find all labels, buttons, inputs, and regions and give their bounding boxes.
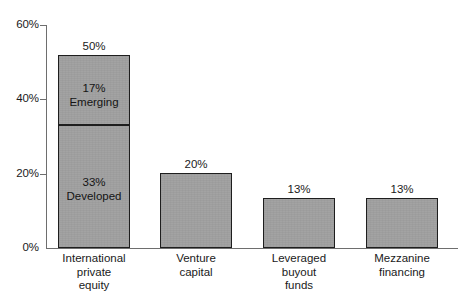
category-line-2: capital	[154, 266, 238, 280]
y-tick-mark-60	[40, 25, 47, 26]
category-label-leveraged-buyout-funds: Leveraged buyout funds	[257, 252, 341, 293]
category-line-1: Leveraged	[257, 252, 341, 266]
category-line-1: Venture	[154, 252, 238, 266]
segment-label-developed: 33% Developed	[58, 176, 130, 203]
bar-venture-capital	[160, 173, 232, 248]
plot-area: 60% 40% 20% 0% 50% 17% Emerging 33% Deve…	[0, 0, 460, 308]
bar-leveraged-buyout-funds	[263, 198, 335, 248]
segment-value-developed: 33%	[58, 176, 130, 190]
bar-segment-divider	[58, 124, 130, 126]
category-label-mezzanine-financing: Mezzanine financing	[360, 252, 444, 279]
category-line-3: funds	[257, 279, 341, 293]
category-line-3: equity	[52, 279, 136, 293]
bar-texture	[161, 174, 231, 247]
category-line-1: International	[52, 252, 136, 266]
x-axis-line	[46, 248, 458, 249]
y-tick-label-20: 20%	[0, 168, 39, 180]
bar-value-label-1: 50%	[58, 41, 130, 53]
bar-mezzanine-financing	[366, 198, 438, 248]
y-tick-label-60: 60%	[0, 19, 39, 31]
bar-texture	[264, 199, 334, 247]
segment-label-emerging: 17% Emerging	[58, 82, 130, 109]
category-label-venture-capital: Venture capital	[154, 252, 238, 279]
y-tick-label-0: 0%	[0, 242, 39, 254]
bar-value-label-2: 20%	[160, 159, 232, 171]
category-line-2: financing	[360, 266, 444, 280]
y-axis-line	[46, 25, 47, 249]
category-line-2: private	[52, 266, 136, 280]
segment-name-developed: Developed	[58, 190, 130, 204]
y-tick-mark-20	[40, 174, 47, 175]
bar-chart: 60% 40% 20% 0% 50% 17% Emerging 33% Deve…	[0, 0, 460, 308]
bar-texture	[367, 199, 437, 247]
bar-value-label-3: 13%	[263, 184, 335, 196]
category-label-international-private-equity: International private equity	[52, 252, 136, 293]
segment-name-emerging: Emerging	[58, 96, 130, 110]
y-tick-mark-40	[40, 99, 47, 100]
category-line-2: buyout	[257, 266, 341, 280]
category-line-1: Mezzanine	[360, 252, 444, 266]
segment-value-emerging: 17%	[58, 82, 130, 96]
bar-value-label-4: 13%	[366, 184, 438, 196]
y-tick-label-40: 40%	[0, 93, 39, 105]
